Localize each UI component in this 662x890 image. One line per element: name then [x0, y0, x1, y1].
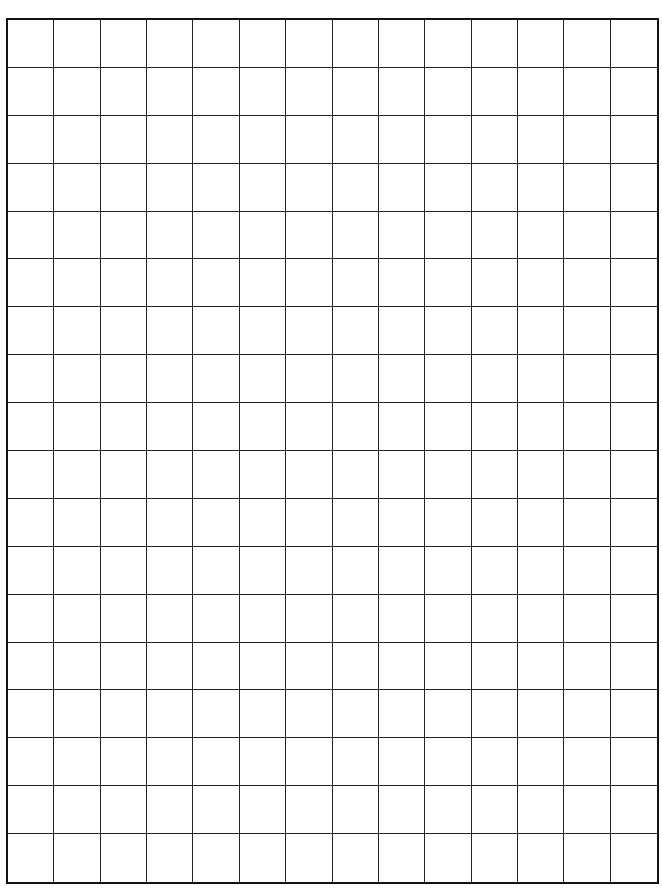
grid-cell — [472, 690, 518, 738]
grid-cell — [101, 355, 147, 403]
grid-cell — [472, 786, 518, 834]
grid-cell — [333, 499, 379, 547]
grid-cell — [518, 307, 564, 355]
grid-cell — [518, 259, 564, 307]
grid-cell — [193, 164, 239, 212]
grid-cell — [8, 307, 54, 355]
grid-cell — [518, 595, 564, 643]
grid-cell — [379, 643, 425, 691]
grid-cell — [147, 307, 193, 355]
grid-cell — [379, 20, 425, 68]
grid-cell — [611, 212, 657, 260]
grid-cell — [240, 499, 286, 547]
grid-cell — [564, 499, 610, 547]
grid-cell — [564, 20, 610, 68]
grid-cell — [193, 834, 239, 882]
grid-cell — [286, 20, 332, 68]
grid-cell — [101, 643, 147, 691]
grid-cell — [286, 499, 332, 547]
grid-cell — [564, 259, 610, 307]
grid-cell — [379, 68, 425, 116]
grid-cell — [101, 259, 147, 307]
grid-cell — [333, 116, 379, 164]
grid-cell — [379, 403, 425, 451]
grid-cell — [518, 499, 564, 547]
grid-cell — [611, 164, 657, 212]
grid-cell — [611, 595, 657, 643]
grid-cell — [147, 403, 193, 451]
grid-cell — [8, 499, 54, 547]
grid-cell — [147, 20, 193, 68]
grid-cell — [54, 259, 100, 307]
grid-cell — [611, 20, 657, 68]
grid-cell — [240, 116, 286, 164]
grid-cell — [379, 547, 425, 595]
grid-cell — [564, 595, 610, 643]
grid-cell — [8, 212, 54, 260]
grid-cell — [101, 403, 147, 451]
grid-cell — [286, 834, 332, 882]
grid-cell — [425, 20, 471, 68]
grid-cell — [333, 451, 379, 499]
grid-cell — [286, 643, 332, 691]
grid-cell — [54, 212, 100, 260]
grid-cell — [8, 355, 54, 403]
grid-cell — [8, 451, 54, 499]
grid-cell — [472, 547, 518, 595]
grid-cell — [564, 403, 610, 451]
grid-cell — [54, 786, 100, 834]
grid-cell — [240, 690, 286, 738]
grid-cell — [101, 68, 147, 116]
grid-cell — [8, 643, 54, 691]
grid-cell — [193, 786, 239, 834]
grid-cell — [240, 20, 286, 68]
grid-cell — [472, 212, 518, 260]
grid-cell — [611, 547, 657, 595]
grid-cell — [425, 690, 471, 738]
grid-cell — [379, 690, 425, 738]
grid-cell — [8, 738, 54, 786]
grid-cell — [101, 499, 147, 547]
grid-cell — [379, 259, 425, 307]
grid-cell — [611, 307, 657, 355]
grid-cell — [54, 643, 100, 691]
grid-cell — [611, 786, 657, 834]
grid-cell — [425, 547, 471, 595]
grid-cell — [472, 116, 518, 164]
grid-cell — [240, 643, 286, 691]
grid-cell — [286, 307, 332, 355]
grid-cell — [193, 595, 239, 643]
grid-cell — [286, 116, 332, 164]
grid-cell — [564, 738, 610, 786]
grid-cell — [54, 738, 100, 786]
grid-cell — [333, 690, 379, 738]
grid-cell — [564, 834, 610, 882]
grid-cell — [8, 20, 54, 68]
grid-cell — [472, 355, 518, 403]
grid-cell — [425, 403, 471, 451]
grid-cell — [193, 355, 239, 403]
grid-cell — [611, 403, 657, 451]
grid-cell — [8, 116, 54, 164]
grid-cell — [518, 690, 564, 738]
grid-cell — [147, 690, 193, 738]
grid-cell — [101, 547, 147, 595]
grid-cell — [54, 451, 100, 499]
grid-cell — [147, 786, 193, 834]
grid-cell — [425, 259, 471, 307]
grid-cell — [193, 20, 239, 68]
grid-cell — [147, 116, 193, 164]
grid-cell — [240, 738, 286, 786]
grid-cell — [611, 68, 657, 116]
grid-cell — [564, 164, 610, 212]
grid-cell — [147, 643, 193, 691]
grid-cell — [472, 595, 518, 643]
grid-cell — [564, 690, 610, 738]
grid-cell — [425, 307, 471, 355]
grid-cell — [54, 164, 100, 212]
grid-cell — [147, 68, 193, 116]
grid-cell — [147, 595, 193, 643]
grid-cell — [379, 116, 425, 164]
blank-grid-sheet — [6, 18, 659, 884]
grid-cell — [8, 259, 54, 307]
